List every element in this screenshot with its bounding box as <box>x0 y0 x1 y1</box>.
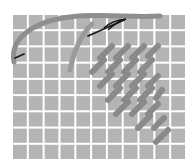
canvas-cell <box>13 15 27 29</box>
canvas-cell <box>76 129 90 143</box>
needlepoint-illustration <box>0 0 194 166</box>
canvas-cell <box>171 47 185 61</box>
canvas-cell <box>29 31 43 45</box>
canvas-cell <box>45 145 59 159</box>
canvas-cell <box>45 96 59 110</box>
canvas-cell <box>171 80 185 94</box>
canvas-cell <box>13 64 27 78</box>
canvas-cell <box>108 145 122 159</box>
canvas-cell <box>29 129 43 143</box>
thread-tail <box>70 24 92 70</box>
canvas-cell <box>61 129 75 143</box>
canvas-cell <box>45 80 59 94</box>
canvas-cell <box>45 31 59 45</box>
canvas-cell <box>45 47 59 61</box>
canvas-cell <box>108 31 122 45</box>
canvas-cell <box>29 96 43 110</box>
canvas-cell <box>13 112 27 126</box>
canvas-cell <box>140 31 154 45</box>
canvas-cell <box>124 31 138 45</box>
canvas-cell <box>29 64 43 78</box>
canvas-cell <box>140 145 154 159</box>
canvas-cell <box>45 64 59 78</box>
canvas-cell <box>76 112 90 126</box>
canvas-cell <box>92 129 106 143</box>
canvas-cell <box>76 145 90 159</box>
canvas-cell <box>45 112 59 126</box>
canvas-cell <box>92 96 106 110</box>
canvas-cell <box>61 112 75 126</box>
canvas-cell <box>13 129 27 143</box>
canvas-cell <box>92 112 106 126</box>
canvas-cell <box>171 112 185 126</box>
canvas-cell <box>61 31 75 45</box>
canvas-cell <box>108 129 122 143</box>
canvas-cell <box>155 145 169 159</box>
canvas-cell <box>13 80 27 94</box>
canvas-cell <box>171 64 185 78</box>
canvas-cell <box>171 31 185 45</box>
canvas-cell <box>171 15 185 29</box>
canvas-cell <box>61 96 75 110</box>
canvas-cell <box>92 145 106 159</box>
canvas-cell <box>171 96 185 110</box>
canvas-cell <box>61 80 75 94</box>
canvas-cell <box>13 96 27 110</box>
canvas-cell <box>76 96 90 110</box>
canvas-cell <box>140 129 154 143</box>
canvas-cell <box>29 112 43 126</box>
canvas-cell <box>124 145 138 159</box>
canvas-cell <box>171 129 185 143</box>
canvas-cell <box>29 47 43 61</box>
canvas-cell <box>171 145 185 159</box>
canvas-cell <box>76 64 90 78</box>
canvas-cell <box>29 145 43 159</box>
canvas-cell <box>45 129 59 143</box>
canvas-cell <box>61 145 75 159</box>
canvas-cell <box>124 129 138 143</box>
canvas-cell <box>29 80 43 94</box>
canvas-cell <box>76 80 90 94</box>
canvas-cell <box>13 145 27 159</box>
